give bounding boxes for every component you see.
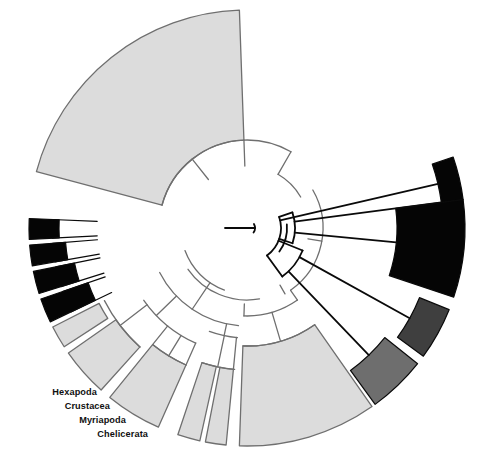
branch-radial-4	[291, 290, 298, 300]
clade-label-myriapoda: Myriapoda	[79, 415, 127, 425]
outgroup-radial-7	[267, 256, 282, 277]
branch-arc-1	[244, 140, 291, 152]
branch-radial-7	[224, 324, 226, 336]
clade-wedge-w-hexapoda	[29, 218, 59, 239]
clade-wedge-w-black-2	[389, 200, 465, 298]
branch-arc-13	[185, 251, 224, 290]
branch-radial-3	[272, 312, 281, 341]
branch-radial-12	[233, 337, 236, 369]
branch-radial-1	[278, 152, 291, 175]
branch-radial-0	[192, 159, 208, 179]
terminal-branch-5	[53, 240, 98, 244]
branch-radial-9	[218, 336, 225, 367]
branch-radial-8	[156, 296, 176, 315]
branch-radial-14	[153, 326, 168, 345]
outgroup-arc-0	[267, 217, 281, 256]
branch-arc-3	[244, 300, 298, 316]
clade-label-chelicerata: Chelicerata	[97, 429, 148, 439]
clade-wedge-w-crustacea	[30, 242, 68, 266]
outgroup-radial-2	[279, 212, 292, 217]
clade-label-crustacea: Crustacea	[65, 401, 111, 411]
clade-wedge-w-black-1	[432, 157, 463, 202]
branch-radial-2	[244, 140, 245, 166]
clade-label-hexapoda: Hexapoda	[52, 387, 98, 397]
tree-canvas: HexapodaCrustaceaMyriapodaChelicerata	[0, 0, 487, 468]
branch-arc-6	[209, 331, 237, 337]
outgroup-arc-2	[282, 250, 302, 276]
branch-radial-13	[186, 343, 196, 365]
clade-wedge-w-top-large	[36, 10, 244, 205]
clade-wedge-w-darkgray-1	[397, 298, 449, 356]
branch-radial-6	[192, 283, 210, 310]
branch-radial-17	[280, 285, 285, 294]
branch-radial-16	[308, 239, 322, 241]
outgroup-radial-1	[295, 233, 397, 243]
branch-arc-2	[278, 174, 301, 197]
clade-wedge-w-lgray-right	[239, 325, 372, 446]
branch-radial-10	[169, 335, 182, 355]
branch-radial-11	[120, 305, 147, 326]
phylogenetic-tree-figure: HexapodaCrustaceaMyriapodaChelicerata	[0, 0, 487, 468]
